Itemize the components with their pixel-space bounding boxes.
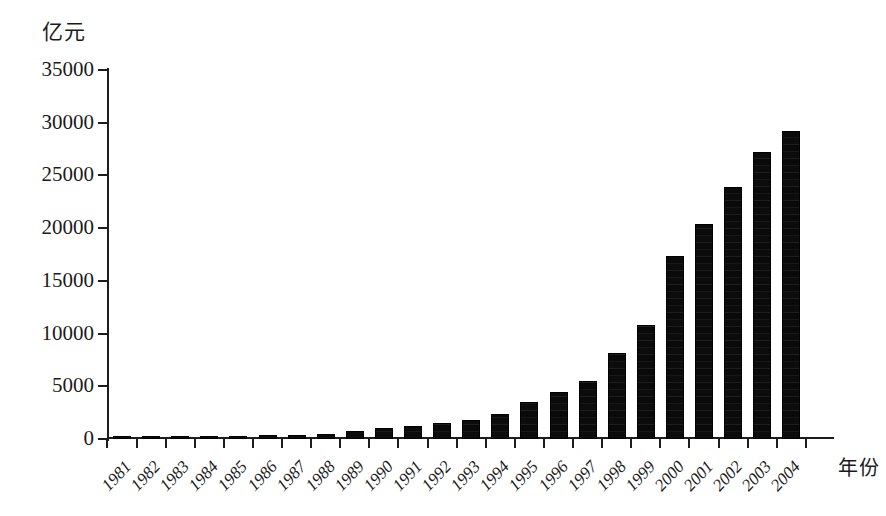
bar [433, 423, 451, 439]
bar [666, 256, 684, 439]
x-tick-mark [368, 439, 370, 448]
bar [608, 353, 626, 439]
x-tick-mark [252, 439, 254, 448]
bar [346, 431, 364, 439]
bar [375, 428, 393, 439]
x-tick-mark [776, 439, 778, 448]
bar [142, 436, 160, 439]
x-tick-mark [601, 439, 603, 448]
y-tick-label-text: 25000 [0, 164, 94, 185]
x-tick-mark [718, 439, 720, 448]
x-tick-mark [223, 439, 225, 448]
x-tick-mark [572, 439, 574, 448]
y-tick-label: 10000 [0, 323, 94, 344]
bar [171, 436, 189, 439]
y-tick-label-text: 0 [0, 428, 94, 449]
bar [782, 131, 800, 439]
bar [637, 325, 655, 439]
bar [695, 224, 713, 439]
x-tick-mark [136, 439, 138, 448]
bar [229, 436, 247, 439]
x-tick-mark [165, 439, 167, 448]
x-tick-mark [427, 439, 429, 448]
bar [317, 434, 335, 439]
y-tick-label-text: 10000 [0, 323, 94, 344]
y-tick-label-text: 20000 [0, 217, 94, 238]
x-tick-mark [485, 439, 487, 448]
bar-chart: 亿元 05000100001500020000250003000035000 1… [0, 0, 886, 516]
bar [550, 392, 568, 439]
y-tick-label-text: 35000 [0, 59, 94, 80]
y-tick-label: 35000 [0, 59, 94, 80]
x-tick-mark [514, 439, 516, 448]
x-tick-mark [194, 439, 196, 448]
bar [724, 187, 742, 439]
y-tick-label-text: 5000 [0, 375, 94, 396]
y-tick-label-text: 15000 [0, 270, 94, 291]
bar [520, 402, 538, 439]
bar [288, 435, 306, 439]
y-tick-label-text: 30000 [0, 112, 94, 133]
x-tick-mark [688, 439, 690, 448]
y-tick-label: 30000 [0, 112, 94, 133]
bar [462, 420, 480, 439]
x-tick-mark [805, 439, 807, 448]
y-tick-label: 5000 [0, 375, 94, 396]
bar [579, 381, 597, 440]
y-tick-label: 20000 [0, 217, 94, 238]
y-tick-label: 0 [0, 428, 94, 449]
x-tick-mark [339, 439, 341, 448]
x-tick-mark [310, 439, 312, 448]
x-tick-mark [630, 439, 632, 448]
bar [113, 436, 131, 439]
x-tick-mark [106, 439, 108, 448]
x-tick-mark [659, 439, 661, 448]
x-tick-mark [747, 439, 749, 448]
y-tick-label: 25000 [0, 164, 94, 185]
bar [404, 426, 422, 439]
x-axis-title: 年份 [838, 458, 880, 478]
y-axis-unit-label: 亿元 [42, 22, 86, 43]
x-tick-mark [281, 439, 283, 448]
x-tick-mark [397, 439, 399, 448]
x-tick-mark [456, 439, 458, 448]
bar [259, 435, 277, 439]
bar [491, 414, 509, 439]
bar [753, 152, 771, 439]
x-tick-mark [543, 439, 545, 448]
y-tick-label: 15000 [0, 270, 94, 291]
bars-container [107, 70, 831, 439]
bar [200, 436, 218, 439]
